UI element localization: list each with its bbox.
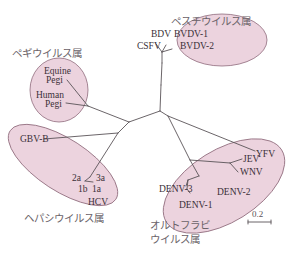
leaf-1b: 1b	[78, 184, 88, 194]
leaf-bvdv-2: BVDV-2	[180, 41, 214, 51]
leaf-bdv: BDV	[151, 29, 171, 39]
leaf-bvdv-1: BVDV-1	[174, 29, 208, 39]
pestivirus-genus-label: ペスチウイルス属	[171, 15, 251, 27]
leaf-1a: 1a	[92, 184, 102, 194]
leaf-3a: 3a	[96, 173, 106, 183]
pegivirus-genus-label: ペギウイルス属	[12, 47, 82, 59]
leaf-denv-3: DENV-3	[159, 184, 193, 194]
scale-bar-label: 0.2	[252, 209, 263, 219]
phylogenetic-tree-diagram: ペスチウイルス属 ペギウイルス属 ヘパシウイルス属 オルトフラビ ウイルス属 B…	[0, 0, 295, 259]
leaf-2a: 2a	[72, 173, 82, 183]
hepacivirus-clade-ellipse	[0, 109, 130, 221]
orthoflavivirus-genus-label-line2: ウイルス属	[150, 233, 200, 245]
leaf-denv-2: DENV-2	[217, 187, 251, 197]
scale-bar: 0.2	[248, 209, 271, 224]
leaf-gbv-b: GBV-B	[20, 134, 49, 144]
leaf-jev: JEV	[243, 154, 260, 164]
leaf-denv-1: DENV-1	[179, 200, 213, 210]
leaf-wnv: WNV	[240, 167, 263, 177]
hepacivirus-genus-label: ヘパシウイルス属	[24, 212, 104, 224]
leaf-human-pegi: Pegi	[45, 99, 62, 109]
orthoflavivirus-genus-label-line1: オルトフラビ	[150, 219, 210, 231]
leaf-csfv: CSFV	[137, 41, 161, 51]
leaf-hcv: HCV	[88, 197, 108, 207]
leaf-equine-pegi: Pegi	[46, 75, 63, 85]
